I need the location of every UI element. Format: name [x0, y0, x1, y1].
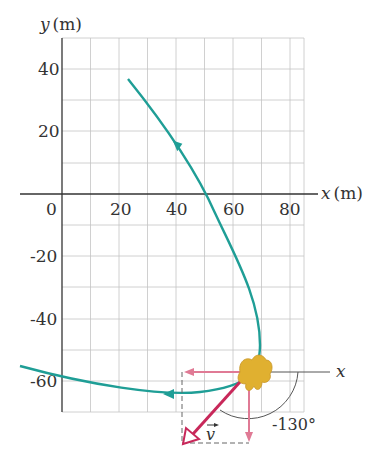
grid — [62, 38, 304, 412]
x-tick: 20 — [110, 199, 132, 219]
y-tick: -40 — [30, 309, 57, 329]
y-axis-label: y(m) — [39, 14, 82, 34]
y-tick: -20 — [30, 246, 57, 266]
local-x-label: x — [336, 361, 346, 381]
path-direction-arrow — [163, 389, 174, 399]
origin-label: 0 — [46, 199, 57, 219]
y-tick: 40 — [38, 59, 60, 79]
trajectory-diagram: y(m) x(m) 0 20 40 60 80 40 20 -20 -40 -6… — [0, 0, 377, 463]
x-tick: 60 — [223, 199, 245, 219]
rabbit-icon — [238, 355, 272, 390]
angle-label: -130° — [272, 415, 316, 434]
x-tick: 40 — [166, 199, 188, 219]
x-axis-label: x(m) — [321, 183, 363, 203]
x-tick: 80 — [279, 199, 301, 219]
velocity-label: v — [206, 425, 215, 444]
y-tick: 20 — [38, 121, 60, 141]
